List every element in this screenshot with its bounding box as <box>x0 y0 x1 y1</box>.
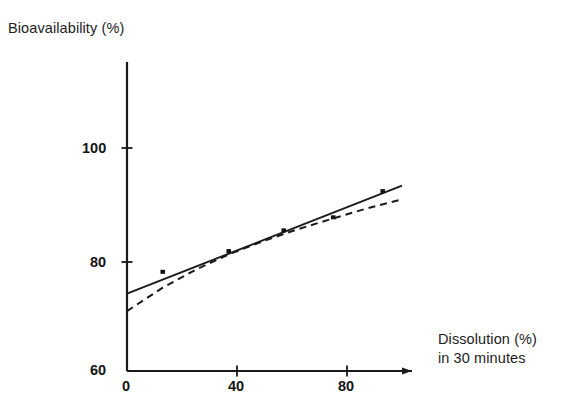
x-axis-title-line-1: Dissolution (%) <box>438 330 537 349</box>
y-axis-title: Bioavailability (%) <box>8 20 124 36</box>
data-point <box>226 249 231 253</box>
series-line-1 <box>127 199 402 311</box>
chart-figure: Bioavailability (%) Dissolution (%) in 3… <box>0 0 586 419</box>
axes-group <box>127 62 412 375</box>
data-point <box>380 189 385 193</box>
x-axis-tick-label-40: 40 <box>228 378 244 394</box>
x-axis-arrowhead <box>402 367 412 374</box>
y-axis-tick-label-100: 100 <box>82 140 106 156</box>
data-point <box>281 228 286 232</box>
y-axis-tick-label-60: 60 <box>90 362 106 378</box>
x-axis-tick-label-80: 80 <box>338 378 354 394</box>
data-series-group <box>127 186 402 311</box>
data-point <box>331 215 336 219</box>
data-point <box>160 270 165 274</box>
y-axis-tick-label-80: 80 <box>90 254 106 270</box>
x-axis-title: Dissolution (%) in 30 minutes <box>438 330 537 368</box>
series-line-0 <box>127 186 402 294</box>
data-points-group <box>160 189 385 274</box>
x-axis-title-line-2: in 30 minutes <box>438 349 537 368</box>
x-axis-tick-label-0: 0 <box>122 378 130 394</box>
